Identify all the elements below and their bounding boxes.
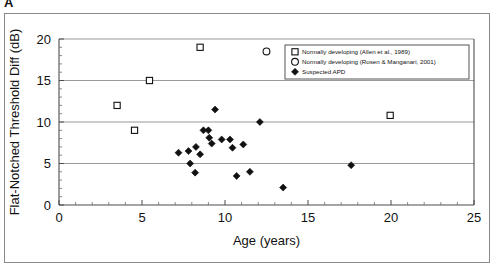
data-point-s2-13 [229, 144, 236, 151]
data-point-s0-0 [114, 102, 120, 108]
legend-marker-0 [292, 49, 298, 55]
y-tick-label-5: 5 [44, 156, 51, 171]
data-point-s2-7 [205, 127, 212, 134]
x-tick-label-0: 0 [55, 210, 62, 225]
data-point-s2-10 [212, 106, 219, 113]
data-point-s0-3 [197, 44, 203, 50]
data-point-s0-2 [146, 77, 152, 83]
legend-marker-1 [292, 58, 299, 65]
x-tick-label-10: 10 [218, 210, 232, 225]
y-tick-label-20: 20 [37, 32, 51, 47]
data-point-s2-14 [233, 172, 240, 179]
figure-frame: 051015202505101520Age (years)Flat-Notche… [4, 13, 490, 263]
data-point-s1-0 [263, 48, 270, 55]
y-axis-title: Flat-Notched Threshold Diff (dB) [7, 29, 22, 216]
data-point-s2-16 [246, 168, 253, 175]
data-point-s0-1 [131, 127, 137, 133]
data-point-s2-18 [280, 184, 287, 191]
x-tick-label-5: 5 [138, 210, 145, 225]
legend-label-1: Normally developing (Rosen & Manganari, … [302, 58, 436, 65]
data-point-s2-1 [185, 148, 192, 155]
y-tick-label-15: 15 [37, 73, 51, 88]
x-tick-label-25: 25 [467, 210, 481, 225]
y-tick-label-0: 0 [44, 198, 51, 213]
panel-label: A [4, 0, 13, 10]
scatter-chart: 051015202505101520Age (years)Flat-Notche… [5, 14, 491, 264]
legend-label-2: Suspected APD [302, 68, 346, 75]
x-axis-title: Age (years) [233, 233, 300, 248]
x-tick-label-15: 15 [301, 210, 315, 225]
data-point-s2-5 [197, 151, 204, 158]
y-tick-label-10: 10 [37, 115, 51, 130]
data-point-s2-3 [192, 169, 199, 176]
chart-canvas: 051015202505101520Age (years)Flat-Notche… [5, 14, 491, 264]
data-point-s2-15 [240, 141, 247, 148]
data-point-s2-4 [192, 143, 199, 150]
data-point-s2-19 [348, 162, 355, 169]
data-point-s0-4 [387, 112, 393, 118]
data-point-s2-17 [256, 119, 263, 126]
data-point-s2-2 [187, 160, 194, 167]
legend-label-0: Normally developing (Allen et al., 1989) [302, 48, 410, 55]
data-point-s2-11 [218, 136, 225, 143]
data-point-s2-0 [175, 149, 182, 156]
x-tick-label-20: 20 [384, 210, 398, 225]
data-point-s2-12 [226, 136, 233, 143]
